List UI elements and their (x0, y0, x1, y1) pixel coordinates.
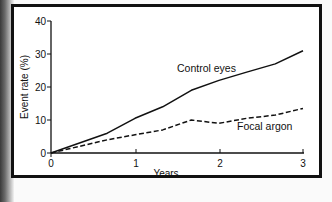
line-chart: 40 30 20 10 0 0 1 2 3 Years Event rate (… (0, 0, 332, 202)
series-label-focal-argon: Focal argon (237, 120, 293, 132)
x-tick-label: 3 (300, 158, 306, 169)
y-tick-labels: 40 30 20 10 0 (35, 16, 47, 159)
x-axis-title: Years (153, 168, 178, 179)
y-tick-label: 20 (35, 82, 47, 93)
x-tick-label: 2 (217, 158, 223, 169)
x-tick-label: 0 (48, 158, 54, 169)
y-tick-label: 0 (40, 148, 46, 159)
x-tick-label: 1 (133, 158, 139, 169)
figure-page: 40 30 20 10 0 0 1 2 3 Years Event rate (… (0, 0, 332, 202)
y-axis-title: Event rate (%) (19, 55, 30, 119)
y-tick-label: 30 (35, 49, 47, 60)
series-label-control-eyes: Control eyes (177, 62, 236, 74)
y-tick-label: 40 (35, 16, 47, 27)
y-tick-label: 10 (35, 115, 47, 126)
